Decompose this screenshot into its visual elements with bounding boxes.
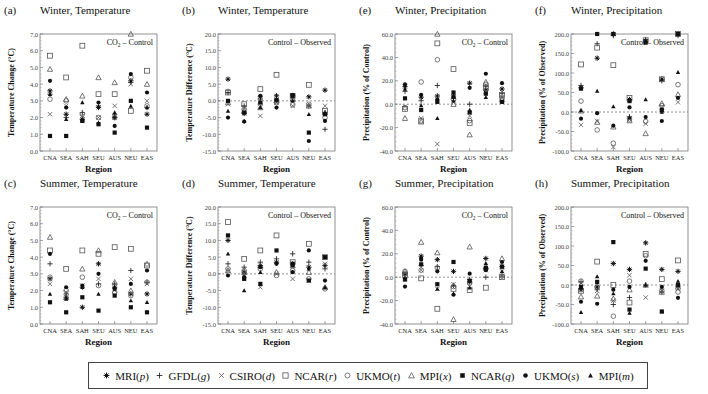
x-tick-label: SAH	[431, 327, 444, 334]
x-tick-label: EAS	[141, 154, 154, 161]
x-tick-label: SEU	[92, 154, 105, 161]
panel-annotation: CO2 – Control	[462, 211, 509, 221]
panel-label: (g)	[359, 177, 372, 190]
x-tick-label: SEA	[60, 327, 73, 334]
x-tick-label: NEU	[479, 327, 493, 334]
x-axis-label: Region	[440, 337, 467, 347]
legend-label: NCAR(q)	[471, 370, 514, 382]
y-tick-label: 7.0	[30, 204, 38, 211]
x-tick-label: NEU	[655, 327, 669, 334]
y-tick-label: 150.0	[554, 223, 569, 230]
y-tick-label: 20.0	[205, 31, 216, 38]
legend-label: MRI(p)	[115, 370, 149, 382]
x-axis-label: Region	[616, 337, 643, 347]
y-tick-label: 40.0	[382, 227, 393, 234]
y-tick-label: 15.0	[205, 220, 216, 227]
x-tick-label: CNA	[574, 154, 588, 161]
y-axis-label: Temperature Difference (°C)	[185, 43, 194, 141]
x-tick-label: SAH	[76, 154, 89, 161]
y-tick-label: 200.0	[554, 204, 569, 211]
y-tick-label: 50.0	[558, 89, 569, 96]
data-points	[225, 72, 327, 143]
x-tick-label: SEA	[415, 327, 428, 334]
y-tick-label: 60.0	[382, 204, 393, 211]
plus-marker-icon	[155, 371, 164, 380]
y-axis-label: Temperature Change (°C)	[7, 221, 16, 310]
x-tick-label: SEA	[60, 154, 73, 161]
x-tick-label: CNA	[574, 327, 588, 334]
panel-annotation: CO2 – Control	[107, 211, 154, 221]
panel-title: Winter, Temperature	[218, 4, 308, 16]
panel-label: (d)	[182, 177, 195, 190]
x-tick-label: AUS	[463, 154, 476, 161]
y-tick-label: -50.0	[555, 301, 569, 308]
y-tick-label: 5.0	[208, 81, 216, 88]
panel-h: (h)Summer, Precipitation-100.0-50.00.050…	[531, 173, 708, 353]
x-tick-label: SAH	[76, 327, 89, 334]
y-tick-label: 150.0	[554, 50, 569, 57]
y-tick-label: -50.0	[555, 128, 569, 135]
legend-item-gfdl-g: GFDL(g)	[155, 370, 210, 382]
legend-label: UKMO(t)	[356, 370, 400, 382]
legend-item-mpi-m: MPI(m)	[586, 370, 634, 382]
panel-label: (h)	[535, 177, 548, 190]
x-tick-label: SEA	[238, 154, 251, 161]
legend-label: MPI(m)	[599, 370, 634, 382]
y-tick-label: 5.0	[208, 254, 216, 261]
x-tick-label: SEU	[447, 154, 460, 161]
data-points	[402, 31, 504, 146]
y-tick-label: -10.0	[202, 131, 216, 138]
y-axis-label: Precipitation (% of Control)	[362, 217, 371, 314]
x-tick-label: CNA	[221, 327, 235, 334]
x-tick-label: CNA	[43, 154, 57, 161]
y-tick-label: -40.0	[379, 321, 393, 328]
y-tick-label: 5.0	[30, 237, 38, 244]
x-tick-label: AUS	[286, 327, 299, 334]
y-tick-label: 50.0	[558, 262, 569, 269]
y-tick-label: 200.0	[554, 31, 569, 38]
y-tick-label: 4.0	[30, 254, 38, 261]
panel-annotation: Control – Observed	[268, 211, 331, 220]
x-tick-label: NEU	[655, 154, 669, 161]
y-tick-label: 2.0	[30, 287, 38, 294]
x-tick-label: SEU	[623, 154, 636, 161]
data-points	[225, 220, 327, 293]
data-points	[47, 31, 149, 138]
x-tick-label: NEU	[479, 154, 493, 161]
x-tick-label: EAS	[319, 327, 332, 334]
plot-area	[571, 207, 688, 324]
legend-item-ncar-q: NCAR(q)	[458, 370, 514, 382]
y-tick-label: 5.0	[30, 64, 38, 71]
x-tick-label: CNA	[398, 154, 412, 161]
panel-label: (b)	[182, 4, 195, 17]
x-tick-label: SAH	[431, 154, 444, 161]
y-tick-label: 4.0	[30, 81, 38, 88]
asterisk-marker-icon	[102, 371, 111, 380]
y-tick-label: 100.0	[554, 243, 569, 250]
y-tick-label: -100.0	[552, 148, 569, 155]
y-tick-label: 0.0	[30, 148, 38, 155]
y-tick-label: 3.0	[30, 270, 38, 277]
panel-annotation: CO2 – Control	[462, 38, 509, 48]
x-tick-label: SEA	[238, 327, 251, 334]
legend-item-ncar-r: NCAR(r)	[281, 370, 336, 382]
y-tick-label: -5.0	[206, 287, 216, 294]
panel-label: (e)	[359, 4, 372, 17]
panel-annotation: CO2 – Control	[107, 38, 154, 48]
x-tick-label: SAH	[254, 327, 267, 334]
panel-annotation: Control – Observed	[268, 38, 331, 47]
panel-c: (c)Summer, Temperature0.01.02.03.04.05.0…	[0, 173, 177, 353]
x-tick-label: NEU	[302, 154, 316, 161]
y-tick-label: -15.0	[202, 321, 216, 328]
y-tick-label: 0.0	[208, 270, 216, 277]
panel-d: (d)Summer, Temperature-15.0-10.0-5.00.05…	[178, 173, 355, 353]
y-axis-label: Precipitation (% of Observed)	[538, 214, 547, 318]
x-tick-label: SAH	[607, 154, 620, 161]
y-tick-label: -20.0	[379, 124, 393, 131]
y-tick-label: -15.0	[202, 148, 216, 155]
x-tick-label: SEU	[270, 327, 283, 334]
y-tick-label: 6.0	[30, 47, 38, 54]
legend-label: UKMO(s)	[534, 370, 579, 382]
y-tick-label: -5.0	[206, 114, 216, 121]
panel-title: Summer, Precipitation	[395, 177, 494, 189]
